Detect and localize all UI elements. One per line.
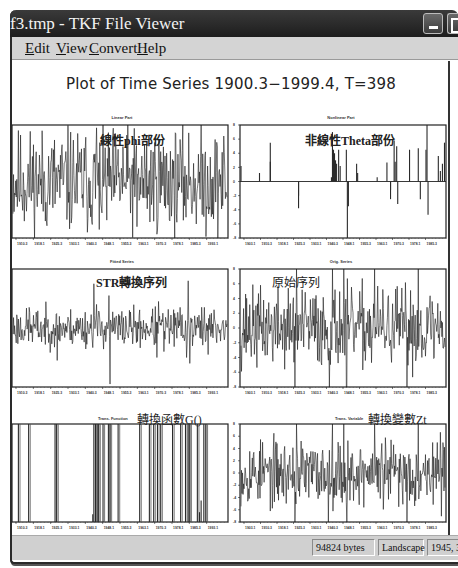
chart-annotation: STR轉換序列 (96, 273, 167, 291)
x-tick-label: 1970.3 (156, 242, 166, 246)
y-tick-label: 0 (233, 326, 235, 330)
x-tick-label: 1925.3 (295, 391, 305, 395)
x-tick-label: 1910.3 (17, 242, 27, 246)
y-tick-label: -6 (233, 508, 236, 512)
y-tick-label: -2 (233, 341, 236, 345)
y-tick-label: 8 (233, 267, 235, 271)
x-tick-label: 1970.3 (394, 391, 404, 395)
y-tick-label: 2 (233, 459, 235, 463)
y-tick-label: -8 (233, 520, 236, 524)
status-file-size: 94824 bytes (312, 539, 375, 556)
x-tick-label: 1985.3 (427, 242, 437, 246)
x-tick-label: 1948.1 (344, 526, 354, 530)
x-tick-label: 1918.1 (34, 391, 44, 395)
menu-view[interactable]: View (56, 37, 88, 59)
x-tick-label: 1948.1 (104, 526, 114, 530)
y-tick-label: 6 (233, 137, 235, 141)
y-tick-label: 2 (233, 311, 235, 315)
y-tick-label: -2 (233, 483, 236, 487)
y-tick-label: -6 (233, 222, 236, 226)
x-tick-label: 1948.1 (104, 242, 114, 246)
window-title: f3.tmp - TKF File Viewer (10, 10, 184, 37)
chart-title: Trans. Function (98, 416, 128, 421)
x-tick-label: 1963.1 (138, 526, 148, 530)
x-tick-label: 1993.1 (208, 526, 218, 530)
x-tick-label: 1933.1 (311, 526, 321, 530)
x-tick-label: 1940.3 (86, 391, 96, 395)
y-tick-label: -2 (233, 194, 236, 198)
chart-title: Trans. Variable (335, 416, 363, 421)
chart-title: Linear Part (12, 115, 232, 120)
x-tick-label: 1985.3 (427, 526, 437, 530)
x-tick-label: 1993.1 (208, 391, 218, 395)
x-tick-label: 1963.1 (377, 242, 387, 246)
x-tick-label: 1933.1 (311, 242, 321, 246)
menu-edit[interactable]: Edit (25, 37, 50, 59)
y-tick-label: -8 (233, 236, 236, 240)
x-tick-label: 1918.1 (278, 526, 288, 530)
y-tick-label: -4 (233, 208, 236, 212)
x-tick-label: 1963.1 (377, 391, 387, 395)
y-tick-label: 6 (233, 282, 235, 286)
x-tick-label: 1925.3 (295, 526, 305, 530)
plot-title: Plot of Time Series 1900.3−1999.4, T=398 (12, 75, 450, 93)
status-bar: 94824 bytes Landscape 1945, 3096 (12, 535, 458, 560)
menu-bar: Edit View Convert Help (12, 37, 458, 60)
chart-fitted-series: 1910.31918.11925.31933.11940.31948.11955… (12, 259, 232, 399)
chart-original-series: 1903.11910.31918.11925.31933.11940.31948… (232, 259, 450, 399)
x-tick-label: 1985.3 (427, 391, 437, 395)
x-tick-label: 1940.3 (328, 242, 338, 246)
maximize-button[interactable] (447, 13, 458, 34)
chart-trans-function: 1910.31918.11925.31933.11940.31948.11955… (12, 406, 232, 534)
x-tick-label: 1940.3 (328, 526, 338, 530)
y-tick-label: 8 (233, 123, 235, 127)
x-tick-label: 1985.3 (190, 526, 200, 530)
x-tick-label: 1970.3 (394, 526, 404, 530)
y-tick-label: -4 (233, 496, 236, 500)
x-tick-label: 1985.3 (190, 242, 200, 246)
y-tick-label: 4 (233, 297, 235, 301)
x-tick-label: 1925.3 (52, 391, 62, 395)
status-orientation: Landscape (378, 539, 424, 556)
y-tick-label: 0 (233, 180, 235, 184)
x-tick-label: 1963.1 (138, 242, 148, 246)
minimize-button[interactable] (423, 13, 443, 34)
y-tick-label: 4 (233, 447, 235, 451)
x-tick-label: 1948.1 (104, 391, 114, 395)
chart-trans-variable: 1903.11910.31918.11925.31933.11940.31948… (232, 406, 450, 534)
x-tick-label: 1918.1 (34, 242, 44, 246)
y-tick-label: 0 (233, 471, 235, 475)
x-tick-label: 1955.3 (121, 526, 131, 530)
x-tick-label: 1925.3 (52, 526, 62, 530)
x-tick-label: 1910.3 (17, 526, 27, 530)
x-tick-label: 1933.1 (311, 391, 321, 395)
x-tick-label: 1918.1 (278, 242, 288, 246)
x-tick-label: 1910.3 (262, 242, 272, 246)
chart-linear-part: 1910.31918.11925.31933.11940.31948.11955… (12, 115, 232, 250)
menu-help[interactable]: Help (137, 37, 166, 59)
x-tick-label: 1963.1 (377, 526, 387, 530)
x-tick-label: 1955.3 (361, 526, 371, 530)
x-tick-label: 1948.1 (344, 391, 354, 395)
x-tick-label: 1918.1 (34, 526, 44, 530)
x-tick-label: 1955.3 (121, 242, 131, 246)
x-tick-label: 1925.3 (52, 242, 62, 246)
y-tick-label: 6 (233, 434, 235, 438)
menu-convert[interactable]: Convert (89, 37, 137, 59)
x-tick-label: 1903.1 (245, 526, 255, 530)
plot-canvas: Plot of Time Series 1900.3−1999.4, T=398… (12, 61, 450, 535)
chart-annotation: 非線性Theta部份 (305, 131, 395, 149)
title-bar[interactable]: f3.tmp - TKF File Viewer (10, 10, 458, 37)
x-tick-label: 1903.1 (245, 391, 255, 395)
x-tick-label: 1978.1 (410, 526, 420, 530)
x-tick-label: 1940.3 (86, 242, 96, 246)
chart-annotation: 轉換變數Zt (368, 410, 427, 428)
chart-title: Nonlinear Part (232, 115, 450, 120)
x-tick-label: 1910.3 (262, 526, 272, 530)
y-tick-label: 2 (233, 166, 235, 170)
x-tick-label: 1948.1 (344, 242, 354, 246)
x-tick-label: 1978.1 (410, 391, 420, 395)
x-tick-label: 1955.3 (361, 391, 371, 395)
chart-plot-area: 1903.11910.31918.11925.31933.11940.31948… (232, 259, 450, 399)
x-tick-label: 1903.1 (245, 242, 255, 246)
